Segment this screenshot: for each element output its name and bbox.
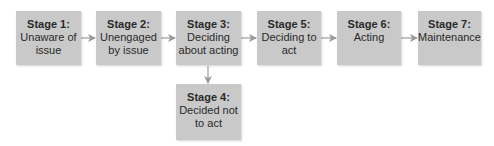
stage-3-description: Deciding about acting bbox=[179, 31, 239, 57]
stage-1-title: Stage 1: bbox=[27, 18, 70, 31]
stage-7-description: Maintenance bbox=[418, 31, 481, 44]
stage-6-description: Acting bbox=[354, 31, 385, 44]
stage-5-box: Stage 5: Deciding to act bbox=[257, 11, 321, 65]
stage-4-description: Decided not to act bbox=[179, 104, 238, 130]
stage-4-box: Stage 4: Decided not to act bbox=[176, 84, 241, 140]
stage-3-title: Stage 3: bbox=[187, 18, 230, 31]
stage-2-title: Stage 2: bbox=[107, 18, 150, 31]
stage-7-title: Stage 7: bbox=[428, 18, 471, 31]
stage-3-box: Stage 3: Deciding about acting bbox=[176, 11, 241, 65]
stage-4-title: Stage 4: bbox=[187, 91, 230, 104]
stage-6-title: Stage 6: bbox=[348, 18, 391, 31]
stage-5-title: Stage 5: bbox=[268, 18, 311, 31]
stage-5-description: Deciding to act bbox=[261, 31, 316, 57]
stage-7-box: Stage 7: Maintenance bbox=[418, 11, 481, 65]
stage-1-description: Unaware of issue bbox=[20, 31, 76, 57]
stage-6-box: Stage 6: Acting bbox=[337, 11, 401, 65]
stage-1-box: Stage 1: Unaware of issue bbox=[16, 11, 81, 65]
stage-2-box: Stage 2: Unengaged by issue bbox=[96, 11, 161, 65]
stage-2-description: Unengaged by issue bbox=[100, 31, 157, 57]
